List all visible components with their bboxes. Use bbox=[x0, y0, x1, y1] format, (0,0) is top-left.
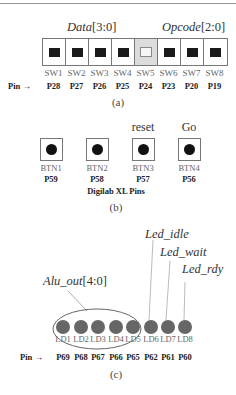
led-wait-label: Led_wait bbox=[160, 245, 207, 260]
led-label: LD1 bbox=[53, 334, 73, 344]
arrow-right-icon: → bbox=[34, 352, 43, 362]
led-ld5 bbox=[126, 320, 140, 334]
led-pin: P65 bbox=[123, 352, 143, 362]
led-pin: P60 bbox=[175, 352, 195, 362]
led-pin: P67 bbox=[88, 352, 108, 362]
pin-label-text: Pin bbox=[20, 352, 32, 362]
led-wait-leader-line bbox=[166, 261, 170, 320]
led-label: LD8 bbox=[175, 334, 195, 344]
led-idle-label: Led_idle bbox=[145, 227, 189, 242]
led-pin: P69 bbox=[53, 352, 73, 362]
led-ld3 bbox=[91, 320, 105, 334]
figure-caption-c: (c) bbox=[101, 368, 131, 380]
alu-out-name: Alu_out bbox=[43, 274, 83, 288]
led-label: LD5 bbox=[123, 334, 143, 344]
led-ld2 bbox=[74, 320, 88, 334]
alu-out-label: Alu_out[4:0] bbox=[43, 274, 107, 289]
led-rdy-label: Led_rdy bbox=[182, 262, 223, 277]
led-ld7 bbox=[161, 320, 175, 334]
alu-out-leader-line bbox=[68, 291, 87, 311]
led-ld8 bbox=[178, 320, 192, 334]
led-rdy-leader-line bbox=[184, 282, 185, 320]
led-ld6 bbox=[144, 320, 158, 334]
led-idle-leader-line bbox=[149, 240, 153, 320]
pin-row-label: Pin → bbox=[20, 352, 43, 362]
alu-out-bits: [4:0] bbox=[83, 274, 107, 288]
led-ld1 bbox=[56, 320, 70, 334]
led-label: LD3 bbox=[88, 334, 108, 344]
led-ld4 bbox=[109, 320, 123, 334]
